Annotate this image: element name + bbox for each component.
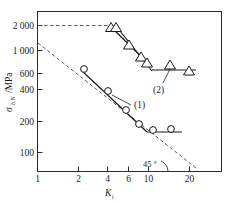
y-tick-label-2000: 2 000 (13, 21, 35, 31)
chart-svg: 2 000 1 000 600 400 200 100 σ b,N /MPa 1… (0, 0, 229, 203)
data-point-circle (105, 88, 112, 95)
y-axis-title-symbol: σ (4, 107, 14, 112)
chart-figure: 2 000 1 000 600 400 200 100 σ b,N /MPa 1… (0, 0, 229, 203)
y-tick-label-100: 100 (20, 148, 35, 158)
x-tick-label-4: 4 (105, 174, 110, 184)
x-tick-label-2: 2 (76, 174, 81, 184)
series-2-callout-leader (163, 69, 170, 83)
series-2-triangles: (2) (106, 23, 197, 97)
y-axis-title-subscript: b,N (10, 96, 16, 106)
series-2-callout-label: (2) (153, 85, 164, 96)
y-tick-label-1000: 1 000 (13, 46, 35, 56)
y-axis-title-unit: /MPa (4, 72, 14, 93)
data-point-circle (123, 107, 130, 114)
reference-line-45deg-dashed (38, 43, 196, 168)
x-tick-label-1: 1 (35, 174, 40, 184)
data-point-triangle (165, 60, 176, 69)
data-point-circle (136, 121, 143, 128)
x-tick-label-6: 6 (126, 174, 131, 184)
data-point-circle (81, 66, 88, 73)
y-tick-label-600: 600 (20, 69, 35, 79)
plot-frame (38, 12, 222, 172)
x-tick-label-10: 10 (144, 174, 154, 184)
y-tick-label-400: 400 (20, 85, 35, 95)
y-axis-title: σ b,N /MPa (4, 72, 16, 112)
x-tick-label-20: 20 (185, 174, 195, 184)
x-axis-title-subscript: t (112, 194, 114, 200)
y-tick-label-200: 200 (20, 117, 35, 127)
x-axis-title-symbol: K (104, 188, 112, 198)
series-1-callout-label: (1) (134, 100, 145, 111)
angle-annotation: 45 ° (143, 159, 168, 171)
angle-arc (161, 161, 168, 171)
x-axis-ticks (38, 167, 190, 172)
angle-label: 45 ° (143, 159, 157, 169)
data-point-circle (168, 126, 175, 133)
x-axis-title: K t (104, 188, 114, 200)
data-point-circle (150, 127, 157, 134)
